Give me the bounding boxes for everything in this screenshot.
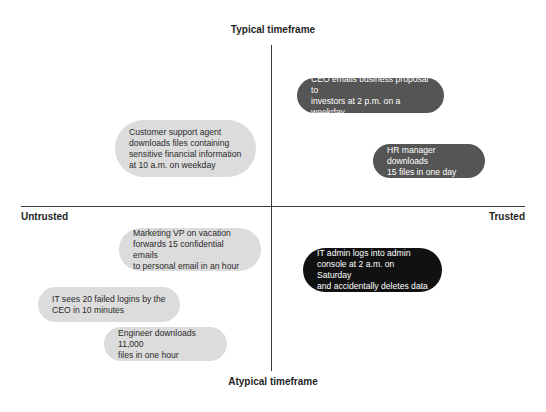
item-it-failed-logins: IT sees 20 failed logins by the CEO in 1… xyxy=(38,287,180,322)
item-text: IT admin logs into admin console at 2 a.… xyxy=(317,248,428,292)
axis-label-untrusted: Untrusted xyxy=(21,211,68,222)
item-text: Customer support agent downloads files c… xyxy=(129,127,241,171)
item-hr-manager-downloads: HR manager downloads 15 files in one day xyxy=(373,144,485,178)
item-text: HR manager downloads 15 files in one day xyxy=(387,145,471,178)
item-it-admin-deletes-data: IT admin logs into admin console at 2 a.… xyxy=(303,248,442,292)
item-engineer-downloads: Engineer downloads 11,000 files in one h… xyxy=(104,327,227,361)
axis-label-typical-timeframe: Typical timeframe xyxy=(0,24,546,35)
item-text: CEO emails business proposal to investor… xyxy=(311,74,430,118)
item-customer-support-downloads: Customer support agent downloads files c… xyxy=(115,120,256,177)
vertical-axis-line xyxy=(271,45,272,371)
horizontal-axis-line xyxy=(21,206,525,207)
item-text: IT sees 20 failed logins by the CEO in 1… xyxy=(52,294,166,316)
axis-label-atypical-timeframe: Atypical timeframe xyxy=(0,376,546,387)
item-text: Marketing VP on vacation forwards 15 con… xyxy=(133,228,247,272)
item-marketing-vp-forwards: Marketing VP on vacation forwards 15 con… xyxy=(119,228,261,271)
item-ceo-emails-proposal: CEO emails business proposal to investor… xyxy=(297,78,444,113)
axis-label-trusted: Trusted xyxy=(489,211,525,222)
item-text: Engineer downloads 11,000 files in one h… xyxy=(118,328,213,361)
